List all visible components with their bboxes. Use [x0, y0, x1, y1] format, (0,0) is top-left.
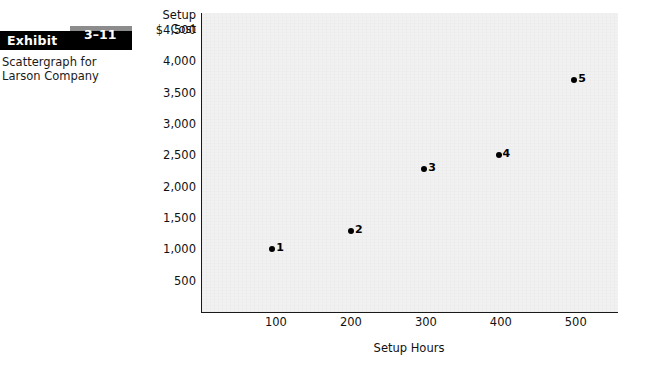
data-point-marker	[496, 152, 502, 158]
y-axis-tick-label: $4,500	[156, 24, 196, 36]
data-point-marker	[348, 228, 354, 234]
data-point-label: 3	[428, 162, 436, 174]
data-point-label: 4	[503, 148, 511, 160]
y-axis-tick-label: 3,500	[163, 87, 196, 99]
y-axis-tick-label: 1,000	[163, 243, 196, 255]
exhibit-number: 3–11	[84, 27, 116, 43]
x-axis-tick-label: 300	[396, 316, 456, 329]
plot-area	[201, 13, 618, 313]
exhibit-word: Exhibit	[7, 33, 57, 48]
y-axis-tick-label: 1,500	[163, 212, 196, 224]
y-axis-tick-label: 2,000	[163, 181, 196, 193]
x-axis-tick-label: 200	[321, 316, 381, 329]
data-point-label: 5	[578, 73, 586, 85]
y-axis-tick-label: 3,000	[163, 118, 196, 130]
data-point-label: 2	[355, 224, 363, 236]
y-axis-tick-label: 500	[174, 275, 196, 287]
x-axis-tick-label: 500	[546, 316, 606, 329]
scattergraph: SetupCost $4,5004,0003,5003,0002,5002,00…	[146, 0, 652, 373]
exhibit-caption: Scattergraph for Larson Company	[2, 56, 138, 83]
y-axis-tick-labels: $4,5004,0003,5003,0002,5002,0001,5001,00…	[146, 0, 196, 373]
x-axis-tick-label: 400	[471, 316, 531, 329]
x-axis-title: Setup Hours	[201, 341, 617, 355]
x-axis-tick-label: 100	[246, 316, 306, 329]
y-axis-tick-label: 4,000	[163, 55, 196, 67]
y-axis-tick-label: 2,500	[163, 149, 196, 161]
data-point-label: 1	[276, 242, 284, 254]
